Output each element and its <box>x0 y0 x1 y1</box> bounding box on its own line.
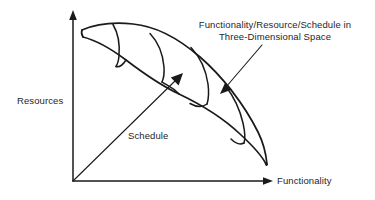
y-axis-label: Resources <box>17 95 63 107</box>
tube-rib-1 <box>113 25 119 67</box>
tradeoff-tube-group <box>82 23 267 165</box>
annotation-text-line-2: Three-Dimensional Space <box>190 31 360 43</box>
annotation-text-line-1: Functionality/Resource/Schedule in <box>190 19 360 31</box>
x-axis-arrowhead <box>263 177 273 185</box>
tube-rib-2-foot <box>162 82 179 94</box>
tube-rib-2 <box>150 34 164 83</box>
tube-right-tip <box>266 164 267 165</box>
tube-left-tip <box>82 30 83 37</box>
annotation-leader-line <box>226 45 262 87</box>
y-axis-arrowhead <box>69 10 77 20</box>
x-axis-label: Functionality <box>277 175 332 187</box>
annotation-text: Functionality/Resource/Schedule in Three… <box>190 19 360 42</box>
tube-rib-4-foot <box>231 139 244 144</box>
annotation-leader-group <box>220 45 262 94</box>
schedule-axis-label: Schedule <box>128 130 168 142</box>
tube-upper-outline <box>82 23 267 164</box>
diagram-canvas: Resources Functionality Schedule Functio… <box>0 0 375 200</box>
